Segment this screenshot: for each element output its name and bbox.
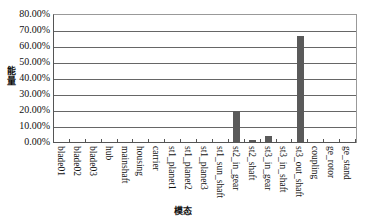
x-tick-label: ge_stand [341, 146, 353, 180]
gridline [54, 63, 356, 64]
x-tick-label: ge_rotor [325, 146, 337, 178]
x-tick [244, 139, 245, 143]
y-tick-label: 80.00% [4, 9, 50, 19]
x-tick [69, 139, 70, 143]
x-tick-label: st3_in_gear [262, 146, 274, 190]
x-tick [355, 139, 356, 143]
x-tick-label: st1_planet1 [166, 146, 178, 190]
x-tick-label: carrier [150, 146, 162, 171]
x-tick-label: st2_in_gear [230, 146, 242, 190]
gridline [54, 79, 356, 80]
y-tick-label: 20.00% [4, 105, 50, 115]
x-axis-label: 模态 [0, 204, 365, 217]
x-tick [148, 139, 149, 143]
x-tick [260, 139, 261, 143]
x-tick-label: blade03 [87, 146, 99, 176]
bar-st2-in-gear [233, 111, 240, 143]
x-tick-label: st1_sun_shaft [214, 146, 226, 198]
gridline [54, 31, 356, 32]
x-tick [85, 139, 86, 143]
x-tick [196, 139, 197, 143]
x-tick [180, 139, 181, 143]
x-tick [164, 139, 165, 143]
x-tick-label: coupling [309, 146, 321, 179]
y-tick-label: 0.00% [4, 137, 50, 147]
y-tick-label: 50.00% [4, 57, 50, 67]
x-tick [101, 139, 102, 143]
gridline [54, 47, 356, 48]
x-tick-label: st2_shaft [246, 146, 258, 180]
y-tick-label: 10.00% [4, 121, 50, 131]
x-tick [276, 139, 277, 143]
y-tick-label: 60.00% [4, 41, 50, 51]
x-tick-label: st3_out_shaft [293, 146, 305, 197]
plot-area [53, 14, 357, 143]
y-tick-label: 70.00% [4, 25, 50, 35]
y-tick-label: 40.00% [4, 73, 50, 83]
x-tick [323, 139, 324, 143]
gridline [54, 95, 356, 96]
x-tick [117, 139, 118, 143]
x-tick-label: st1_planet2 [182, 146, 194, 190]
x-axis-line [53, 142, 356, 143]
x-tick [228, 139, 229, 143]
x-tick [291, 139, 292, 143]
bar-st3-out-shaft [297, 36, 304, 143]
x-tick [132, 139, 133, 143]
x-tick [339, 139, 340, 143]
x-tick [307, 139, 308, 143]
x-tick-label: st1_planet3 [198, 146, 210, 190]
x-tick-label: blade01 [55, 146, 67, 176]
gridline [54, 127, 356, 128]
y-tick-label: 30.00% [4, 89, 50, 99]
x-tick-label: blade02 [71, 146, 83, 176]
bar-chart: 能量 0.00%10.00%20.00%30.00%40.00%50.00%60… [0, 0, 365, 223]
x-tick-label: st3_in_shaft [277, 146, 289, 192]
x-tick [212, 139, 213, 143]
x-tick-label: mainshaft [119, 146, 131, 183]
x-tick-label: hub [103, 146, 115, 160]
x-tick-label: housing [134, 146, 146, 176]
gridline [54, 111, 356, 112]
